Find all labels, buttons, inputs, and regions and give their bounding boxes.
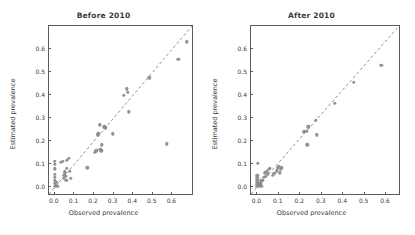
y-tick bbox=[48, 140, 51, 141]
y-tick bbox=[250, 48, 253, 49]
plot-area-before-2010 bbox=[48, 25, 193, 195]
x-tick-label: 0.3 bbox=[316, 197, 326, 204]
y-tick bbox=[48, 117, 51, 118]
y-tick-label: 0.4 bbox=[237, 91, 247, 98]
x-tick-label: 0.3 bbox=[108, 197, 118, 204]
x-tick-label: 0.0 bbox=[252, 197, 262, 204]
x-tick-label: 0.5 bbox=[147, 197, 157, 204]
y-tick bbox=[48, 186, 51, 187]
y-tick-label: 0.5 bbox=[35, 68, 45, 75]
y-tick bbox=[250, 163, 253, 164]
y-tick-label: 0.2 bbox=[35, 137, 45, 144]
x-axis-title: Observed prevalence bbox=[208, 209, 415, 217]
y-tick-label: 0.5 bbox=[237, 68, 247, 75]
x-tick-label: 0.4 bbox=[337, 197, 347, 204]
x-tick bbox=[299, 192, 300, 195]
x-tick bbox=[278, 192, 279, 195]
panel-title: After 2010 bbox=[208, 11, 415, 20]
y-tick bbox=[48, 71, 51, 72]
y-axis-title: Estimated prevalence bbox=[9, 54, 17, 174]
x-tick bbox=[342, 192, 343, 195]
y-tick bbox=[48, 48, 51, 49]
y-tick-label: 0.6 bbox=[237, 45, 247, 52]
x-axis-ticks: 0.00.10.20.30.40.50.6 bbox=[48, 195, 193, 209]
x-tick bbox=[132, 192, 133, 195]
y-axis-title: Estimated prevalence bbox=[211, 54, 219, 174]
x-tick-label: 0.2 bbox=[88, 197, 98, 204]
y-tick-label: 0.0 bbox=[237, 183, 247, 190]
x-tick bbox=[73, 192, 74, 195]
y-axis-ticks: 0.00.10.20.30.40.50.6 bbox=[220, 25, 250, 195]
y-tick-label: 0.1 bbox=[237, 160, 247, 167]
y-tick-label: 0.1 bbox=[35, 160, 45, 167]
y-tick-label: 0.0 bbox=[35, 183, 45, 190]
x-tick-label: 0.4 bbox=[127, 197, 137, 204]
figure: Before 2010 0.00.10.20.30.40.50.6 0.00.1… bbox=[0, 0, 415, 235]
y-tick-label: 0.6 bbox=[35, 45, 45, 52]
y-tick-label: 0.2 bbox=[237, 137, 247, 144]
panel-before-2010: Before 2010 0.00.10.20.30.40.50.6 0.00.1… bbox=[0, 0, 207, 235]
x-axis-title: Observed prevalence bbox=[0, 209, 207, 217]
x-tick bbox=[93, 192, 94, 195]
x-tick bbox=[54, 192, 55, 195]
x-tick-label: 0.0 bbox=[49, 197, 59, 204]
y-tick bbox=[250, 94, 253, 95]
plot-area-after-2010 bbox=[250, 25, 400, 195]
y-tick-label: 0.3 bbox=[237, 114, 247, 121]
y-tick bbox=[250, 117, 253, 118]
x-tick-label: 0.5 bbox=[359, 197, 369, 204]
y-tick-label: 0.4 bbox=[35, 91, 45, 98]
x-axis-ticks: 0.00.10.20.30.40.50.6 bbox=[250, 195, 400, 209]
y-tick bbox=[250, 71, 253, 72]
identity-line bbox=[251, 26, 399, 194]
panel-after-2010: After 2010 0.00.10.20.30.40.50.6 0.00.10… bbox=[208, 0, 415, 235]
x-tick-label: 0.6 bbox=[380, 197, 390, 204]
x-tick-label: 0.6 bbox=[167, 197, 177, 204]
x-tick bbox=[256, 192, 257, 195]
x-tick-label: 0.1 bbox=[69, 197, 79, 204]
y-axis-ticks: 0.00.10.20.30.40.50.6 bbox=[18, 25, 48, 195]
y-tick bbox=[48, 163, 51, 164]
y-tick bbox=[250, 186, 253, 187]
y-tick bbox=[250, 140, 253, 141]
x-tick bbox=[364, 192, 365, 195]
x-tick bbox=[171, 192, 172, 195]
x-tick bbox=[152, 192, 153, 195]
x-tick-label: 0.1 bbox=[273, 197, 283, 204]
x-tick-label: 0.2 bbox=[295, 197, 305, 204]
x-tick bbox=[113, 192, 114, 195]
x-tick bbox=[385, 192, 386, 195]
panel-title: Before 2010 bbox=[0, 11, 207, 20]
y-tick-label: 0.3 bbox=[35, 114, 45, 121]
x-tick bbox=[321, 192, 322, 195]
y-tick bbox=[48, 94, 51, 95]
